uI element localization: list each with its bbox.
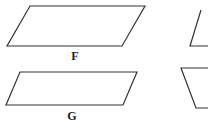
parallelogram-f [7,6,145,46]
parallelogram-g [6,72,137,105]
partial-trapezoid-lower-right [181,68,208,108]
label-g: G [67,109,76,124]
diagram-canvas [0,0,208,126]
partial-shape-upper-right [190,10,208,46]
label-f: F [71,49,78,64]
